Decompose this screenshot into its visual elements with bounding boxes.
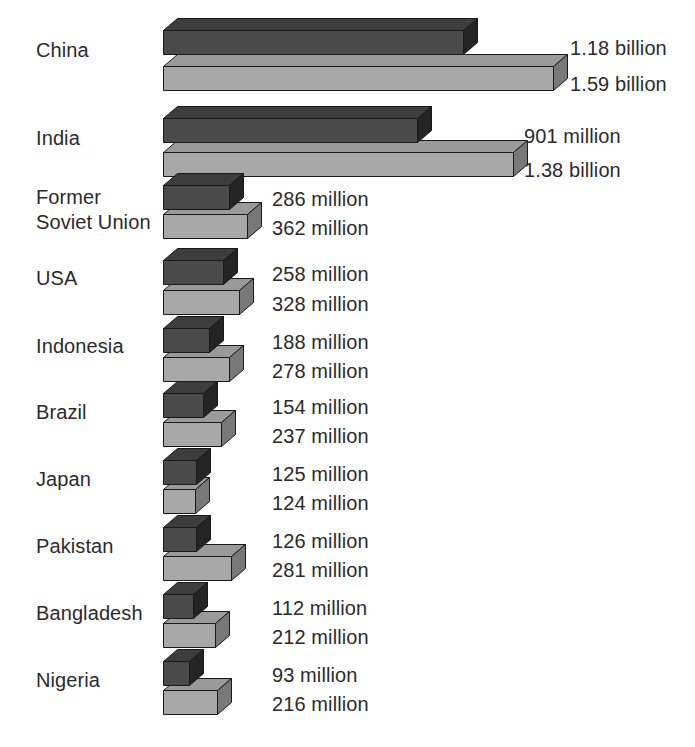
bar-shape-dark [163,173,245,211]
value-label-dark: 125 million [272,464,369,484]
country-label: FormerSoviet Union [36,185,176,235]
bar-dark [163,328,209,352]
bar-shape-dark [163,515,212,553]
bar-dark [163,185,229,209]
country-label-line: China [36,38,176,63]
bar-shape-dark [163,18,479,56]
bar-light [163,66,553,90]
bar-light [163,290,239,314]
country-label-line: Indonesia [36,334,176,359]
country-label: Pakistan [36,534,176,559]
country-label: Bangladesh [36,601,176,626]
bar-dark [163,661,189,685]
bar-light [163,623,215,647]
bar-dark [163,527,196,551]
value-label-light: 328 million [272,294,369,314]
value-label-dark: 126 million [272,531,369,551]
country-label: Japan [36,467,176,492]
bar-dark [163,30,463,54]
value-label-dark: 112 million [272,598,367,618]
bar-light [163,214,247,238]
value-label-light: 1.38 billion [524,160,621,180]
country-label-line: Nigeria [36,668,176,693]
country-label: Indonesia [36,334,176,359]
bar-shape-dark [163,316,225,354]
value-label-dark: 93 million [272,665,357,685]
bar-dark [163,594,193,618]
bar-dark [163,118,417,142]
population-bar-chart: China1.18 billion1.59 billionIndia901 mi… [0,0,695,747]
value-label-light: 212 million [272,627,369,647]
country-label: USA [36,266,176,291]
bar-light [163,489,195,513]
country-label: Brazil [36,400,176,425]
value-label-dark: 286 million [272,189,369,209]
value-label-light: 281 million [272,560,369,580]
bar-shape-dark [163,248,239,286]
bar-dark [163,260,223,284]
bar-shape-dark [163,106,433,144]
value-label-light: 124 million [272,493,369,513]
value-label-light: 362 million [272,218,369,238]
country-label-line: Soviet Union [36,210,176,235]
value-label-dark: 1.18 billion [570,38,667,58]
value-label-dark: 154 million [272,397,369,417]
value-label-dark: 258 million [272,264,369,284]
bar-dark [163,393,203,417]
bar-shape-dark [163,649,205,687]
country-label-line: Former [36,185,176,210]
bar-light [163,357,229,381]
bar-shape-light [163,54,569,92]
bar-shape-dark [163,582,209,620]
country-label: India [36,126,176,151]
value-label-dark: 901 million [524,126,621,146]
value-label-light: 278 million [272,361,369,381]
country-label-line: Pakistan [36,534,176,559]
bar-light [163,690,217,714]
bar-light [163,556,231,580]
bar-dark [163,460,196,484]
bar-shape-dark [163,448,212,486]
country-label-line: India [36,126,176,151]
country-label-line: Bangladesh [36,601,176,626]
value-label-light: 1.59 billion [570,74,667,94]
bar-shape-dark [163,381,219,419]
country-label-line: Japan [36,467,176,492]
country-label-line: Brazil [36,400,176,425]
country-label-line: USA [36,266,176,291]
country-label: China [36,38,176,63]
value-label-dark: 188 million [272,332,369,352]
value-label-light: 216 million [272,694,369,714]
value-label-light: 237 million [272,426,369,446]
country-label: Nigeria [36,668,176,693]
bar-light [163,422,221,446]
